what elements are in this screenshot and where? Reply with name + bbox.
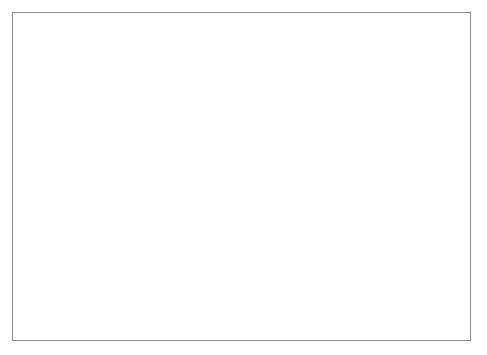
chart-figure: 0200400600800100012001990199219941996199… xyxy=(0,0,487,355)
chart-frame xyxy=(12,12,471,341)
